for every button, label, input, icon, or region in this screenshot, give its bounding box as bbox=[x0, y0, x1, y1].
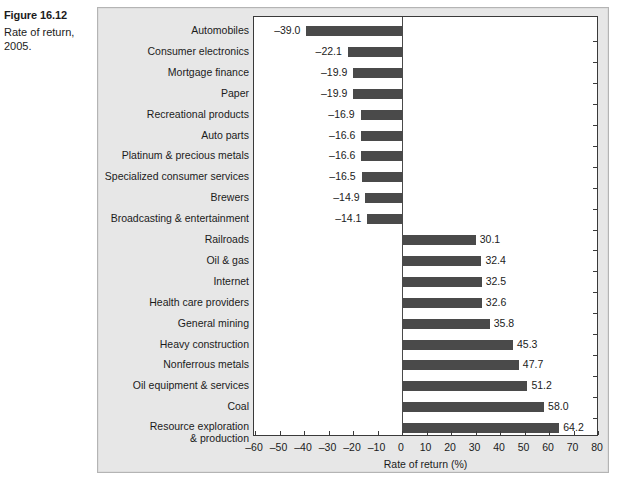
bar bbox=[306, 26, 402, 36]
x-axis-tick-label: 60 bbox=[542, 441, 554, 453]
axis-stub-tick bbox=[593, 376, 597, 377]
bar bbox=[348, 47, 402, 57]
axis-stub-tick bbox=[593, 230, 597, 231]
category-label: Broadcasting & entertainment bbox=[111, 213, 249, 224]
x-axis-title: Rate of return (%) bbox=[253, 458, 598, 470]
x-axis-tick-label: –50 bbox=[270, 441, 288, 453]
figure-number: Figure 16.12 bbox=[4, 8, 92, 23]
bar-value-label: 30.1 bbox=[480, 234, 500, 245]
figure-title: Rate of return, 2005. bbox=[4, 25, 92, 53]
bar bbox=[365, 193, 402, 203]
axis-stub-tick bbox=[593, 313, 597, 314]
bar bbox=[402, 402, 544, 412]
bar bbox=[402, 381, 527, 391]
x-axis-tick bbox=[525, 431, 526, 435]
bar-value-label: –22.1 bbox=[316, 46, 342, 57]
x-axis-tick-label: 70 bbox=[567, 441, 579, 453]
bar-value-label: 45.3 bbox=[517, 339, 537, 350]
x-axis-tick-label: 80 bbox=[591, 441, 603, 453]
zero-baseline bbox=[402, 17, 403, 435]
axis-stub-tick bbox=[593, 355, 597, 356]
bar bbox=[361, 131, 402, 141]
axis-stub-tick bbox=[593, 418, 597, 419]
category-label: Paper bbox=[221, 88, 249, 99]
bar-value-label: 32.6 bbox=[486, 297, 506, 308]
axis-stub-tick bbox=[593, 188, 597, 189]
bar bbox=[361, 110, 402, 120]
axis-stub-tick bbox=[593, 271, 597, 272]
bar bbox=[361, 151, 402, 161]
bar bbox=[402, 360, 519, 370]
x-axis-tick bbox=[378, 431, 379, 435]
axis-stub-tick bbox=[593, 209, 597, 210]
bar-value-label: –16.6 bbox=[329, 130, 355, 141]
bar bbox=[362, 172, 402, 182]
bar bbox=[353, 89, 402, 99]
bar-value-label: –16.5 bbox=[329, 171, 355, 182]
x-axis-tick bbox=[304, 431, 305, 435]
bar-value-label: 32.5 bbox=[486, 276, 506, 287]
x-axis-tick-label: 0 bbox=[398, 441, 404, 453]
category-label: Consumer electronics bbox=[147, 46, 249, 57]
x-axis-tick-label: 10 bbox=[420, 441, 432, 453]
bar bbox=[402, 340, 513, 350]
x-axis-tick-label: 20 bbox=[444, 441, 456, 453]
x-axis-tick-label: –60 bbox=[245, 441, 263, 453]
bar-value-label: –14.9 bbox=[333, 192, 359, 203]
bar-value-label: –39.0 bbox=[274, 25, 300, 36]
bar-value-label: 51.2 bbox=[531, 380, 551, 391]
bar bbox=[402, 235, 476, 245]
bar-value-label: –19.9 bbox=[321, 88, 347, 99]
x-axis-tick-label: –10 bbox=[368, 441, 386, 453]
x-axis-tick bbox=[280, 431, 281, 435]
category-label: General mining bbox=[178, 318, 249, 329]
bar-value-label: –16.9 bbox=[328, 109, 354, 120]
axis-stub-tick bbox=[593, 41, 597, 42]
plot-area: –39.0–22.1–19.9–19.9–16.9–16.6–16.6–16.5… bbox=[253, 16, 598, 436]
x-axis-tick-label: 50 bbox=[518, 441, 530, 453]
category-label: Internet bbox=[213, 276, 249, 287]
bar bbox=[402, 256, 481, 266]
bar-value-label: 47.7 bbox=[523, 359, 543, 370]
category-label: Health care providers bbox=[149, 297, 249, 308]
bar-value-label: –16.6 bbox=[329, 150, 355, 161]
category-label: Automobiles bbox=[191, 25, 249, 36]
x-axis-tick bbox=[500, 431, 501, 435]
category-label: Mortgage finance bbox=[168, 67, 249, 78]
category-axis-labels: AutomobilesConsumer electronicsMortgage … bbox=[98, 16, 253, 436]
x-axis-tick bbox=[451, 431, 452, 435]
x-axis-tick-label: 40 bbox=[493, 441, 505, 453]
category-label: Recreational products bbox=[147, 109, 249, 120]
x-axis-tick-label: 30 bbox=[469, 441, 481, 453]
category-label: Specialized consumer services bbox=[105, 171, 249, 182]
x-axis-tick bbox=[329, 431, 330, 435]
axis-stub-tick bbox=[593, 334, 597, 335]
bar-value-label: 35.8 bbox=[494, 318, 514, 329]
bar bbox=[402, 298, 482, 308]
bar bbox=[353, 68, 402, 78]
category-label: Coal bbox=[227, 401, 249, 412]
category-label: Heavy construction bbox=[160, 339, 249, 350]
axis-stub-tick bbox=[593, 250, 597, 251]
figure-frame: AutomobilesConsumer electronicsMortgage … bbox=[97, 7, 609, 473]
category-label: Auto parts bbox=[201, 130, 249, 141]
x-axis: Rate of return (%) –60–50–40–30–20–10010… bbox=[253, 436, 598, 472]
axis-stub-tick bbox=[593, 146, 597, 147]
bar bbox=[402, 277, 482, 287]
axis-stub-tick bbox=[593, 104, 597, 105]
bar-value-label: 58.0 bbox=[548, 401, 568, 412]
x-axis-tick bbox=[402, 431, 403, 435]
bar-value-label: –19.9 bbox=[321, 67, 347, 78]
x-axis-tick bbox=[574, 431, 575, 435]
category-label: Railroads bbox=[205, 234, 249, 245]
x-axis-tick-label: –40 bbox=[294, 441, 312, 453]
category-label: Nonferrous metals bbox=[163, 359, 249, 370]
axis-stub-tick bbox=[593, 83, 597, 84]
x-axis-tick bbox=[476, 431, 477, 435]
x-axis-tick bbox=[549, 431, 550, 435]
category-label: Platinum & precious metals bbox=[122, 150, 249, 161]
category-label: Brewers bbox=[210, 192, 249, 203]
axis-stub-tick bbox=[593, 397, 597, 398]
axis-stub-tick bbox=[593, 125, 597, 126]
axis-stub-tick bbox=[593, 292, 597, 293]
